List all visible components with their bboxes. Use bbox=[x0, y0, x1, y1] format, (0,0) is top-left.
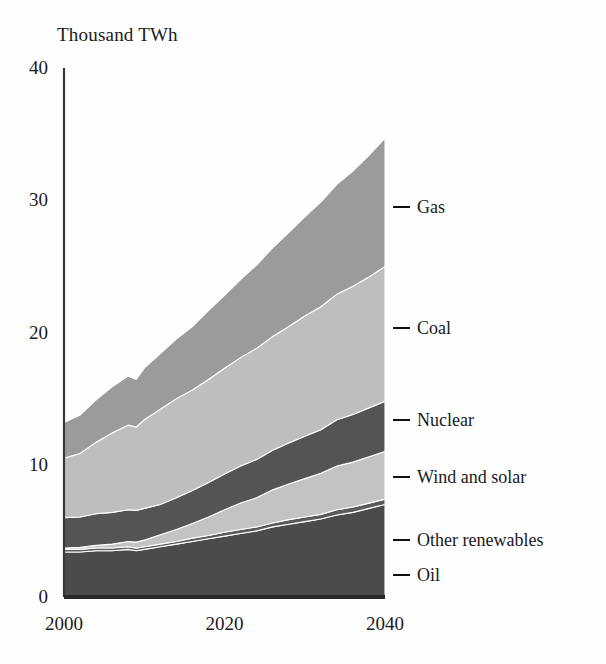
legend-item-wind-and-solar[interactable]: Wind and solar bbox=[393, 468, 526, 486]
legend-label: Coal bbox=[417, 319, 451, 337]
legend-item-nuclear[interactable]: Nuclear bbox=[393, 411, 474, 429]
legend-label: Nuclear bbox=[417, 411, 474, 429]
legend-dash-icon bbox=[393, 419, 410, 421]
legend-item-coal[interactable]: Coal bbox=[393, 319, 451, 337]
legend-dash-icon bbox=[393, 574, 410, 576]
legend-label: Gas bbox=[417, 198, 445, 216]
legend-dash-icon bbox=[393, 476, 410, 478]
legend-item-other-renewables[interactable]: Other renewables bbox=[393, 531, 543, 549]
legend-item-gas[interactable]: Gas bbox=[393, 198, 445, 216]
plot-area bbox=[0, 0, 606, 664]
legend-dash-icon bbox=[393, 539, 410, 541]
legend-item-oil[interactable]: Oil bbox=[393, 566, 440, 584]
legend-label: Oil bbox=[417, 566, 440, 584]
legend-dash-icon bbox=[393, 206, 410, 208]
legend-dash-icon bbox=[393, 327, 410, 329]
chart-figure: Thousand TWh 010203040 200020202040 GasC… bbox=[0, 0, 606, 664]
stacked-area-svg bbox=[0, 0, 606, 664]
legend-label: Other renewables bbox=[417, 531, 543, 549]
legend-label: Wind and solar bbox=[417, 468, 526, 486]
